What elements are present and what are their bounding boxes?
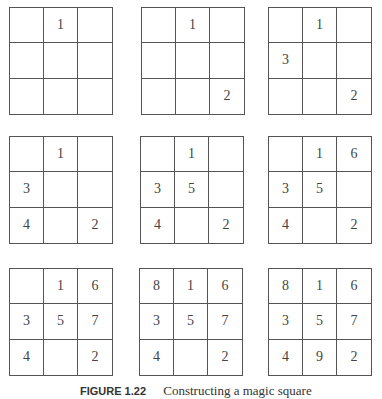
grid-cell: 1 [303,137,337,172]
grid-cell [210,8,244,43]
grid-cell: 6 [337,137,371,172]
grid-cell: 4 [140,340,174,375]
grid-cell [176,79,210,114]
grid-cell: 1 [303,269,337,304]
grid-cell [10,8,44,43]
grid-cell [10,43,44,78]
grid-cell [337,172,371,207]
grid-cell: 8 [269,269,303,304]
grid-cell: 7 [208,304,242,339]
caption-text: Constructing a magic square [163,383,311,398]
square-grid-step-7: 1635742 [9,268,113,376]
grid-cell [142,79,176,114]
grid-cell [44,79,78,114]
grid-cell [269,79,303,114]
grid-cell: 7 [78,304,112,339]
grid-cell [269,8,303,43]
grid-cell [44,208,78,243]
grid-cell [78,172,112,207]
grid-cell [78,8,112,43]
square-grid-step-2: 12 [141,7,245,115]
grid-cell: 6 [78,269,112,304]
grid-cell: 7 [337,304,371,339]
square-grid-step-3: 132 [268,7,372,115]
grid-cell: 1 [44,137,78,172]
grid-cell: 4 [269,340,303,375]
square-grid-step-1: 1 [9,7,113,115]
grid-cell [209,172,243,207]
grid-cell: 3 [269,43,303,78]
grid-cell: 1 [44,269,78,304]
grid-cell [303,208,337,243]
grid-cell [78,137,112,172]
caption-label: FIGURE 1.22 [80,385,146,397]
grid-cell: 3 [269,172,303,207]
grid-cell: 3 [269,304,303,339]
grid-cell: 2 [208,340,242,375]
grid-cell [337,43,371,78]
grid-cell [141,137,175,172]
grid-cell: 3 [10,172,44,207]
grid-cell [142,8,176,43]
grid-cell [44,43,78,78]
grid-cell [303,79,337,114]
square-grid-step-6: 163542 [268,136,372,244]
grid-cell [142,43,176,78]
grid-cell [78,43,112,78]
grid-cell: 2 [337,340,371,375]
grid-cell: 5 [174,304,208,339]
grid-cell: 4 [269,208,303,243]
grid-cell: 8 [140,269,174,304]
grid-cell: 5 [303,172,337,207]
grid-cell: 3 [10,304,44,339]
grid-cell: 1 [176,8,210,43]
grid-cell: 3 [141,172,175,207]
grid-cell: 2 [210,79,244,114]
grid-cell [209,137,243,172]
grid-cell [10,137,44,172]
grid-cell [44,172,78,207]
grid-cell: 6 [208,269,242,304]
square-grid-step-4: 1342 [9,136,113,244]
grid-cell: 2 [209,208,243,243]
grid-cell: 4 [10,340,44,375]
grid-cell: 6 [337,269,371,304]
grid-cell: 2 [78,340,112,375]
grid-cell: 1 [174,269,208,304]
grid-cell [10,269,44,304]
grid-cell: 1 [303,8,337,43]
grid-cell [10,79,44,114]
grid-cell: 4 [141,208,175,243]
grid-cell: 5 [175,172,209,207]
grid-cell: 3 [140,304,174,339]
grid-cell [337,8,371,43]
square-grid-step-8: 81635742 [139,268,243,376]
grid-cell: 1 [44,8,78,43]
grid-cell: 2 [337,208,371,243]
grid-cell: 2 [337,79,371,114]
grid-cell: 5 [303,304,337,339]
grid-cell [175,208,209,243]
figure-caption: FIGURE 1.22 Constructing a magic square [80,383,312,399]
grid-cell [210,43,244,78]
grid-cell [174,340,208,375]
grid-cell [269,137,303,172]
grid-cell: 4 [10,208,44,243]
grid-cell [303,43,337,78]
square-grid-step-9: 816357492 [268,268,372,376]
grid-cell: 5 [44,304,78,339]
grid-cell [44,340,78,375]
grid-cell [78,79,112,114]
grid-cell [176,43,210,78]
square-grid-step-5: 13542 [140,136,244,244]
grid-cell: 2 [78,208,112,243]
grid-cell: 9 [303,340,337,375]
grid-cell: 1 [175,137,209,172]
